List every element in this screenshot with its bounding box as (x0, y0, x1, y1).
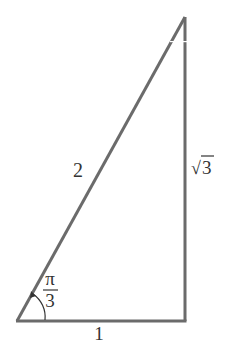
angle-denominator: 3 (45, 290, 55, 311)
radical-sign: √ (191, 158, 201, 178)
hypotenuse-edge (17, 17, 185, 321)
hypotenuse-label: 2 (73, 159, 83, 181)
radicand: 3 (202, 157, 212, 178)
triangle-diagram: π 3 2 1 √ 3 (0, 0, 234, 345)
angle-numerator: π (45, 268, 55, 289)
vertical-label: √ 3 (191, 156, 214, 178)
triangle (16, 17, 187, 321)
line-gap (170, 41, 190, 42)
base-label: 1 (94, 323, 104, 344)
angle-arc (33, 294, 45, 320)
